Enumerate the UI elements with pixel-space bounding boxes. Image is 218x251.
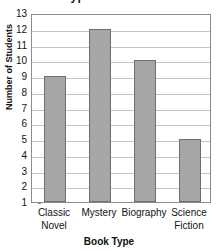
x-tick-label-line: Fiction <box>166 219 212 232</box>
chart-title: Types of Books <box>0 0 218 3</box>
y-tick-label: 6 <box>10 119 27 129</box>
y-tick-label: 13 <box>10 9 27 19</box>
y-tick-label: 5 <box>10 135 27 145</box>
y-axis-tick-labels: 13121110987654321 <box>10 14 27 203</box>
x-tick-label: ScienceFiction <box>166 206 212 232</box>
x-tick-label: Biography <box>121 206 167 219</box>
x-tick-label-line: Mystery <box>76 206 122 219</box>
y-tick-label: 11 <box>10 41 27 51</box>
plot-area <box>31 14 211 203</box>
bar-chart-figure: Types of Books Number of Students 131211… <box>0 0 218 251</box>
bars-group <box>32 15 210 202</box>
bar <box>134 60 156 202</box>
y-tick-mark <box>38 203 41 204</box>
y-tick-label: 8 <box>10 88 27 98</box>
y-tick-label: 12 <box>10 25 27 35</box>
y-tick-label: 7 <box>10 104 27 114</box>
bar <box>179 139 201 202</box>
x-axis-title: Book Type <box>0 236 218 247</box>
x-tick-label: ClassicNovel <box>31 206 77 232</box>
y-tick-label: 2 <box>10 182 27 192</box>
y-tick-label: 4 <box>10 151 27 161</box>
x-tick-label-line: Science <box>166 206 212 219</box>
y-tick-label: 9 <box>10 72 27 82</box>
x-axis-tick-labels: ClassicNovelMysteryBiographyScienceFicti… <box>31 206 211 236</box>
y-tick-label: 10 <box>10 56 27 66</box>
bar <box>44 76 66 202</box>
x-tick-label: Mystery <box>76 206 122 219</box>
y-tick-label: 1 <box>10 198 27 208</box>
bar <box>89 29 111 202</box>
x-tick-label-line: Novel <box>31 219 77 232</box>
x-tick-label-line: Classic <box>31 206 77 219</box>
y-tick-label: 3 <box>10 167 27 177</box>
x-tick-label-line: Biography <box>121 206 167 219</box>
